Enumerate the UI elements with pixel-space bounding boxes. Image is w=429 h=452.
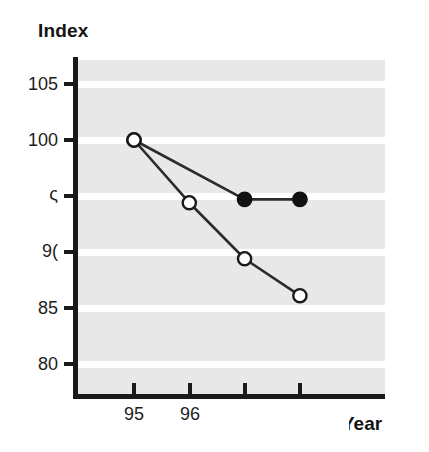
- series-markers-filled: [127, 133, 307, 207]
- chart-container: Index 105 100 ς 9( 85 80 95 96: [0, 0, 429, 452]
- data-layer: [0, 0, 429, 452]
- data-point-filled: [293, 192, 307, 206]
- data-point-filled: [237, 192, 251, 206]
- data-point-open: [127, 133, 140, 146]
- data-point-open: [238, 252, 251, 265]
- series-markers-open: [127, 133, 306, 302]
- series-line-open: [134, 140, 300, 296]
- data-point-open: [293, 289, 306, 302]
- data-point-open: [183, 196, 196, 209]
